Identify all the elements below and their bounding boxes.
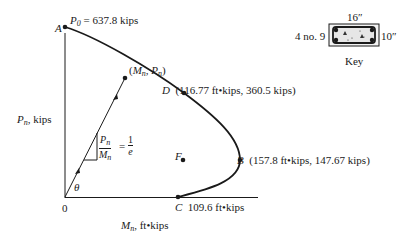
point-d-name: D: [162, 84, 170, 96]
p0-value: = 637.8 kips: [81, 14, 139, 26]
point-b-name: B: [237, 154, 244, 166]
slope-equals: =: [119, 140, 125, 152]
point-c-value: 109.6 ft•kips: [188, 201, 244, 213]
point-d-label: D (116.77 ft•kips, 360.5 kips): [162, 84, 296, 96]
point-mn-pn: [123, 76, 128, 81]
point-f-name: F: [175, 150, 182, 162]
slope-den-sub: n: [107, 153, 111, 162]
x-axis-var: M: [121, 219, 130, 231]
key-bars: 4 no. 9: [295, 30, 325, 42]
key-width: 16″: [347, 11, 363, 23]
mn-pn-label: (Mn, Pn): [129, 64, 166, 80]
point-a: [63, 25, 68, 30]
key-section: [329, 24, 379, 46]
interaction-curve: [65, 27, 240, 197]
point-c-label: C 109.6 ft•kips: [175, 201, 244, 213]
point-d-coords: (116.77 ft•kips, 360.5 kips): [175, 84, 295, 96]
key-caption: Key: [345, 55, 363, 67]
y-axis-var: P: [17, 113, 24, 125]
point-c: [176, 195, 181, 200]
y-axis-unit: , kips: [28, 113, 52, 125]
y-axis-label: Pn, kips: [17, 113, 52, 129]
key-height: 10″: [381, 30, 397, 42]
point-b-coords: (157.8 ft•kips, 147.67 kips): [249, 154, 370, 166]
mn-var: M: [133, 64, 142, 76]
p0-label: P0 = 637.8 kips: [70, 14, 138, 30]
point-b-label: B (157.8 ft•kips, 147.67 kips): [237, 154, 370, 166]
x-axis-label: Mn, ft•kips: [121, 219, 169, 235]
slope-fraction-left: Pn Mn: [99, 134, 111, 163]
slope-rhs-num: 1: [128, 134, 133, 145]
p0-var: P: [70, 14, 77, 26]
x-axis-unit: , ft•kips: [134, 219, 168, 231]
slope-num-sub: n: [106, 138, 110, 147]
arrow-icon: [113, 94, 118, 100]
slope-rhs-den: e: [128, 146, 132, 157]
slope-fraction-right: 1 e: [128, 134, 133, 157]
point-a-name: A: [55, 22, 62, 34]
theta-label: θ: [74, 181, 79, 193]
origin-label: 0: [62, 202, 68, 214]
point-c-name: C: [175, 201, 182, 213]
paren-close: ): [162, 64, 166, 76]
